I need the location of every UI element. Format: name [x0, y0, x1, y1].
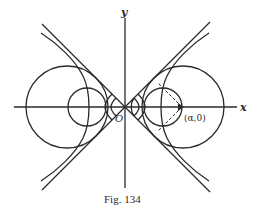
asymptote-positive: [42, 22, 210, 190]
asymptote-negative: [42, 24, 210, 192]
x-axis-label: x: [239, 101, 247, 114]
figure-caption: Fig. 134: [104, 193, 141, 205]
figure-canvas: y x O (α,0) Fig. 134: [0, 0, 262, 212]
point-alpha-marker: [178, 103, 184, 111]
point-alpha-label: (α,0): [184, 113, 206, 123]
y-axis-label: y: [120, 6, 129, 19]
origin-label: O: [115, 113, 123, 124]
